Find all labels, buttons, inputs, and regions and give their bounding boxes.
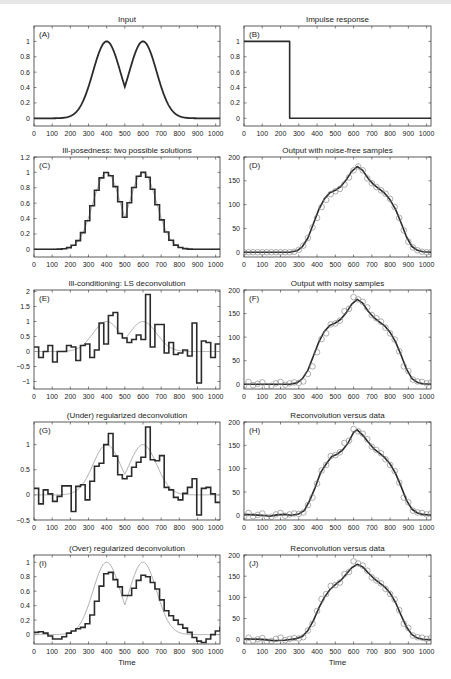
plot-frame bbox=[244, 555, 431, 644]
x-tick-label: 300 bbox=[83, 261, 95, 268]
x-tick-label: 100 bbox=[256, 261, 268, 268]
x-tick-label: 0 bbox=[32, 648, 36, 655]
x-tick-label: 200 bbox=[275, 393, 287, 400]
x-tick-label: 200 bbox=[64, 393, 76, 400]
x-tick-label: 400 bbox=[101, 648, 113, 655]
x-tick-label: 1000 bbox=[419, 261, 435, 268]
x-tick-label: 500 bbox=[119, 524, 131, 531]
x-tick-label: 400 bbox=[311, 130, 323, 137]
series-under-regularized-estimate bbox=[34, 427, 220, 515]
panel-f: Output with noisy samples(F)010020030040… bbox=[228, 279, 434, 400]
panel-c: Ill-posedness: two possible solutions(C)… bbox=[20, 146, 223, 268]
panel-label: (E) bbox=[39, 294, 50, 303]
x-tick-label: 900 bbox=[403, 524, 415, 531]
x-tick-label: 500 bbox=[119, 393, 131, 400]
y-tick-label: 0 bbox=[26, 491, 30, 498]
x-tick-label: 500 bbox=[329, 130, 341, 137]
panel-title: Ill-posedness: two possible solutions bbox=[62, 146, 191, 155]
x-tick-label: 300 bbox=[83, 524, 95, 531]
y-tick-label: 150 bbox=[228, 442, 240, 449]
x-tick-label: 700 bbox=[366, 261, 378, 268]
panel-title: Output with noisy samples bbox=[291, 279, 384, 288]
series-step-solution bbox=[34, 172, 220, 249]
x-tick-label: 200 bbox=[275, 130, 287, 137]
panel-label: (F) bbox=[249, 294, 260, 303]
x-tick-label: 900 bbox=[192, 524, 204, 531]
x-tick-label: 400 bbox=[101, 524, 113, 531]
x-tick-label: 100 bbox=[46, 524, 58, 531]
y-tick-label: 0.5 bbox=[20, 333, 30, 340]
panel-label: (I) bbox=[39, 559, 47, 568]
x-tick-label: 500 bbox=[119, 648, 131, 655]
panel-title: Ill-conditioning: LS deconvolution bbox=[69, 279, 186, 288]
y-tick-label: 50 bbox=[232, 225, 240, 232]
x-tick-label: 300 bbox=[293, 261, 305, 268]
x-tick-label: 700 bbox=[155, 130, 167, 137]
figure-canvas: Input(A)01002003004005006007008009001000… bbox=[0, 0, 451, 679]
x-tick-label: 0 bbox=[32, 261, 36, 268]
y-tick-label: 1 bbox=[26, 38, 30, 45]
x-tick-label: 300 bbox=[293, 130, 305, 137]
x-tick-label: 600 bbox=[137, 261, 149, 268]
y-tick-label: 0.4 bbox=[20, 215, 30, 222]
x-tick-label: 800 bbox=[173, 130, 185, 137]
y-tick-label: 0.4 bbox=[230, 84, 240, 91]
x-tick-label: 800 bbox=[384, 130, 396, 137]
y-tick-label: 0 bbox=[236, 249, 240, 256]
x-tick-label: 300 bbox=[293, 524, 305, 531]
x-tick-label: 1000 bbox=[208, 648, 224, 655]
x-tick-label: 700 bbox=[155, 393, 167, 400]
x-tick-label: 400 bbox=[311, 648, 323, 655]
x-tick-label: 800 bbox=[384, 261, 396, 268]
x-tick-label: 100 bbox=[46, 648, 58, 655]
panel-label: (B) bbox=[249, 30, 260, 39]
x-tick-label: 700 bbox=[155, 524, 167, 531]
y-tick-label: 0 bbox=[26, 115, 30, 122]
series-reconvolution bbox=[244, 564, 431, 640]
x-tick-label: 800 bbox=[384, 648, 396, 655]
y-tick-label: 0.4 bbox=[20, 84, 30, 91]
x-tick-label: 700 bbox=[366, 648, 378, 655]
x-tick-label: 700 bbox=[366, 130, 378, 137]
panel-label: (G) bbox=[39, 426, 51, 435]
x-tick-label: 500 bbox=[119, 261, 131, 268]
x-tick-label: 900 bbox=[192, 261, 204, 268]
x-tick-label: 200 bbox=[64, 524, 76, 531]
x-tick-label: 400 bbox=[311, 261, 323, 268]
x-tick-label: 600 bbox=[137, 648, 149, 655]
plot-frame bbox=[34, 26, 220, 126]
y-tick-label: 0.6 bbox=[20, 69, 30, 76]
panel-title: Reconvolution versus data bbox=[290, 544, 385, 553]
x-tick-label: 300 bbox=[293, 648, 305, 655]
y-tick-label: −0.5 bbox=[16, 363, 30, 370]
panel-e: Ill-conditioning: LS deconvolution(E)010… bbox=[16, 279, 223, 400]
series-output bbox=[244, 299, 431, 384]
panel-label: (A) bbox=[39, 30, 50, 39]
x-tick-label: 100 bbox=[256, 393, 268, 400]
y-tick-label: 0 bbox=[26, 631, 30, 638]
y-tick-label: 0 bbox=[26, 348, 30, 355]
y-tick-label: 1 bbox=[26, 318, 30, 325]
x-axis-label: Time bbox=[118, 658, 136, 667]
x-tick-label: 200 bbox=[275, 524, 287, 531]
x-tick-label: 100 bbox=[46, 261, 58, 268]
panel-title: Output with noise-free samples bbox=[282, 146, 392, 155]
x-tick-label: 800 bbox=[173, 524, 185, 531]
y-tick-label: 0.6 bbox=[230, 69, 240, 76]
y-tick-label: 200 bbox=[228, 419, 240, 426]
panel-label: (C) bbox=[39, 161, 50, 170]
plot-frame bbox=[244, 422, 431, 520]
y-tick-label: 0.5 bbox=[20, 466, 30, 473]
x-tick-label: 600 bbox=[137, 393, 149, 400]
x-tick-label: 900 bbox=[192, 648, 204, 655]
panel-j: Reconvolution versus data(J)010020030040… bbox=[228, 544, 434, 667]
x-tick-label: 800 bbox=[173, 648, 185, 655]
panel-h: Reconvolution versus data(H)010020030040… bbox=[228, 411, 434, 531]
y-tick-label: 150 bbox=[228, 310, 240, 317]
y-tick-label: 100 bbox=[228, 465, 240, 472]
x-tick-label: 300 bbox=[83, 648, 95, 655]
x-tick-label: 900 bbox=[192, 130, 204, 137]
y-tick-label: 50 bbox=[232, 615, 240, 622]
x-tick-label: 200 bbox=[64, 130, 76, 137]
x-tick-label: 200 bbox=[64, 261, 76, 268]
